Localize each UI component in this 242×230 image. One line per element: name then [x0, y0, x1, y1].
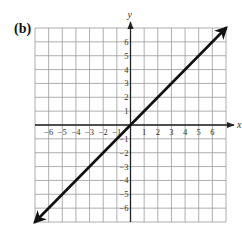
y-tick-label: −3: [119, 162, 128, 172]
x-tick-label: 6: [210, 127, 214, 137]
x-tick-label: −4: [71, 127, 81, 137]
coordinate-plane: xy −6−5−4−3−2−1123456−6−5−4−3−2−1123456: [0, 0, 242, 230]
y-tick-label: 3: [124, 78, 128, 88]
x-tick-label: 1: [142, 127, 146, 137]
x-tick-label: 2: [156, 127, 160, 137]
x-tick-label: 3: [169, 127, 173, 137]
y-tick-label: −6: [119, 203, 128, 213]
x-axis-label: x: [236, 119, 242, 130]
y-tick-label: 1: [124, 106, 128, 116]
y-axis-label: y: [127, 9, 133, 20]
x-tick-label: −5: [58, 127, 67, 137]
y-tick-label: 6: [124, 37, 128, 47]
y-tick-label: 5: [124, 51, 128, 61]
x-tick-label: −2: [99, 127, 108, 137]
y-tick-label: 2: [124, 92, 128, 102]
y-tick-label: −4: [119, 175, 129, 185]
x-tick-label: 4: [183, 127, 188, 137]
x-tick-label: 5: [197, 127, 201, 137]
y-tick-label: −2: [119, 148, 128, 158]
y-tick-label: −5: [119, 189, 128, 199]
x-tick-label: −6: [44, 127, 53, 137]
x-tick-label: −3: [85, 127, 94, 137]
